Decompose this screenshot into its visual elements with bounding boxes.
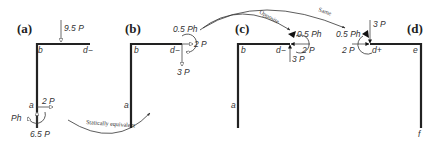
panel-label-a: (a) [17,21,32,36]
load-label-2P-d: 2 P [341,45,355,55]
panel-label-d: (d) [407,21,423,36]
frame-b [131,44,182,128]
node-b-a: b [38,45,43,55]
load-label-2P-b: 2 P [193,39,207,49]
node-d-c: d− [276,45,286,55]
node-e-d: e [413,45,418,55]
panel-c: (c) b d− a 0.5 Ph 2 P 3 P [231,21,322,128]
moment-label-c: 0.5 Ph [297,29,322,39]
load-label-9.5P: 9.5 P [64,23,84,33]
panel-d: (d) d+ e f 3 P 0.5 Ph 2 P [336,19,423,139]
moment-label-d: 0.5 Ph [336,29,361,39]
statically-equivalent-label: Statically equivalent [86,119,136,128]
moment-arrowhead-c [288,31,296,38]
load-label-3P-d: 3 P [373,19,386,29]
comparison-annotations: Opposite Same [200,6,345,30]
node-d-a: d− [83,45,93,55]
moment-label-b: 0.5 Ph [173,24,198,34]
panel-label-b: (b) [125,21,141,36]
node-d-d: d+ [372,45,382,55]
panel-a: (a) 9.5 P b d− a 2 P Ph 6.5 P [11,20,93,139]
load-label-6.5P: 6.5 P [30,129,50,139]
statically-equivalent-annotation: Statically equivalent [68,113,150,133]
node-a-b: a [124,100,129,110]
diagram-canvas: (a) 9.5 P b d− a 2 P Ph 6.5 P Statically… [0,0,434,149]
node-b-b: b [134,45,139,55]
node-a-a: a [29,100,34,110]
load-label-2P: 2 P [41,96,55,106]
frame-d [370,44,421,128]
moment-arrowhead-d [362,30,369,38]
panel-label-c: (c) [235,21,249,36]
frame-c [238,44,290,128]
node-f-d: f [418,129,422,139]
load-label-3P-b: 3 P [177,67,190,77]
panel-b: (b) b d− a 0.5 Ph 2 P 3 P [124,21,207,128]
node-d-b: d− [170,45,180,55]
load-label-3P-c: 3 P [292,54,305,64]
moment-label-Ph: Ph [11,113,22,123]
node-b-c: b [241,45,246,55]
same-label: Same [318,6,333,16]
node-a-c: a [231,100,236,110]
